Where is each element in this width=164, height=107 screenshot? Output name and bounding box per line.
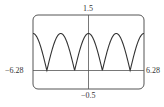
y-max-label: 1.5 bbox=[83, 5, 93, 13]
y-min-label: −0.5 bbox=[81, 92, 96, 100]
x-max-label: 6.28 bbox=[146, 67, 160, 75]
x-min-label: −6.28 bbox=[5, 67, 24, 75]
